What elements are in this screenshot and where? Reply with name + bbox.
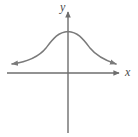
graph-canvas (0, 0, 138, 137)
bell-curve-path (12, 32, 116, 65)
x-axis-label: x (125, 66, 130, 78)
y-axis-label: y (60, 1, 65, 13)
graph-figure: y x (0, 0, 138, 137)
